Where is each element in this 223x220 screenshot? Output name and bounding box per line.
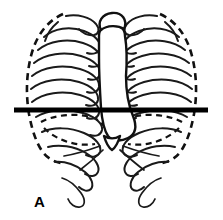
panel-label: A	[34, 194, 45, 209]
thorax-figure-panel: A	[0, 0, 223, 220]
xiphoid-process	[104, 136, 120, 150]
thorax-anatomy-illustration	[0, 0, 223, 220]
